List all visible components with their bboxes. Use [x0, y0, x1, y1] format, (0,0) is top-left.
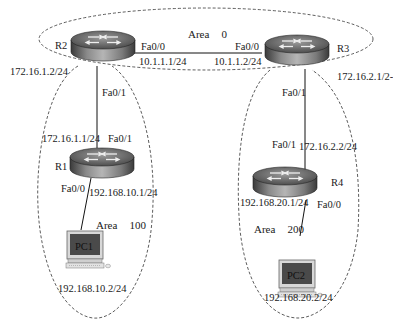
r1-label: R1: [55, 161, 67, 173]
area-200-word: Area: [254, 223, 275, 235]
r3-label: R3: [337, 43, 349, 55]
area-100-number: 100: [129, 219, 146, 231]
r3-fa00-name: Fa0/0: [235, 41, 259, 53]
r3-fa01-name: Fa0/1: [282, 87, 306, 99]
r3-fa00-ip: 10.1.1.2/24: [214, 56, 262, 68]
pc2-screen-label: PC2: [287, 270, 305, 282]
r4-fa01-ip: 172.16.2.2/24: [299, 141, 357, 153]
pc1-screen-label: PC1: [75, 241, 93, 253]
area-0-label: Area0: [188, 28, 227, 40]
r4-fa00-name: Fa0/0: [317, 199, 341, 211]
r1-fa01-name: Fa0/1: [108, 133, 132, 145]
pc1-ip: 192.168.10.2/24: [58, 283, 127, 295]
r1-fa00-name: Fa0/0: [61, 183, 85, 195]
router-r1-icon[interactable]: [70, 148, 134, 178]
area-200-label: Area200: [254, 223, 304, 235]
r1-fa00-ip: 192.168.10.1/24: [89, 187, 158, 199]
r4-label: R4: [331, 177, 343, 189]
r2-fa00-name: Fa0/0: [141, 41, 165, 53]
area-0-word: Area: [188, 28, 209, 40]
r4-fa00-ip: 192.168.20.1/24: [240, 197, 309, 209]
router-r3-icon[interactable]: [265, 35, 329, 65]
r1-fa01-ip: 172.16.1.1/24: [42, 133, 100, 145]
pc2-ip: 192.168.20.2/24: [264, 292, 333, 304]
r4-fa01-name: Fa0/1: [272, 139, 296, 151]
r2-label: R2: [55, 40, 67, 52]
router-r2-icon[interactable]: [71, 31, 135, 61]
area-100-word: Area: [96, 219, 117, 231]
r2-fa01-name: Fa0/1: [102, 87, 126, 99]
area-0-number: 0: [221, 28, 227, 40]
r2-fa01-ip: 172.16.1.2/24: [10, 66, 68, 78]
area-100-label: Area100: [96, 219, 146, 231]
router-r4-icon[interactable]: [253, 167, 317, 197]
r2-fa00-ip: 10.1.1.1/24: [139, 56, 187, 68]
r3-fa01-ip: 172.16.2.1/2-: [337, 71, 393, 83]
area-200-number: 200: [287, 223, 304, 235]
